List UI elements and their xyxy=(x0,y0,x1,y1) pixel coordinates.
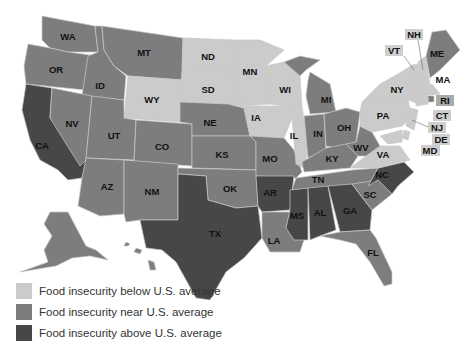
svg-text:CA: CA xyxy=(35,140,49,151)
svg-text:KY: KY xyxy=(325,153,339,164)
svg-text:AZ: AZ xyxy=(101,181,114,192)
legend-label-below: Food insecurity below U.S. average xyxy=(39,285,221,297)
svg-text:CT: CT xyxy=(436,110,449,121)
svg-text:OH: OH xyxy=(337,122,351,133)
state-AK xyxy=(20,212,108,272)
svg-text:NM: NM xyxy=(145,186,160,197)
svg-text:SC: SC xyxy=(363,189,376,200)
svg-text:MN: MN xyxy=(243,66,258,77)
legend-item-near: Food insecurity near U.S. average xyxy=(16,301,222,322)
svg-text:RI: RI xyxy=(440,95,450,106)
svg-text:MA: MA xyxy=(436,74,451,85)
svg-text:GA: GA xyxy=(343,205,357,216)
svg-text:WV: WV xyxy=(353,142,369,153)
svg-text:NV: NV xyxy=(65,118,79,129)
swatch-above xyxy=(16,325,32,341)
svg-text:WY: WY xyxy=(144,94,160,105)
state-HI2 xyxy=(124,242,130,246)
legend-label-above: Food insecurity above U.S. average xyxy=(39,327,222,339)
state-MD xyxy=(380,130,402,144)
legend-item-above: Food insecurity above U.S. average xyxy=(16,322,222,343)
legend: Food insecurity below U.S. average Food … xyxy=(16,280,222,343)
svg-text:NE: NE xyxy=(203,117,216,128)
svg-text:AL: AL xyxy=(314,207,327,218)
svg-text:CO: CO xyxy=(155,141,169,152)
svg-text:OR: OR xyxy=(49,64,63,75)
svg-text:MO: MO xyxy=(262,153,277,164)
svg-text:NY: NY xyxy=(390,84,404,95)
svg-text:NC: NC xyxy=(375,169,389,180)
svg-text:TX: TX xyxy=(209,228,222,239)
svg-text:ME: ME xyxy=(430,48,444,59)
svg-text:KS: KS xyxy=(215,149,228,160)
state-HI xyxy=(148,260,156,270)
svg-text:IN: IN xyxy=(313,128,323,139)
state-FL xyxy=(320,230,392,286)
svg-text:VA: VA xyxy=(377,149,390,160)
legend-label-near: Food insecurity near U.S. average xyxy=(39,306,214,318)
svg-text:NH: NH xyxy=(407,29,421,40)
svg-text:UT: UT xyxy=(108,130,121,141)
svg-text:IA: IA xyxy=(251,112,261,123)
legend-item-below: Food insecurity below U.S. average xyxy=(16,280,222,301)
svg-text:TN: TN xyxy=(312,174,325,185)
svg-text:ND: ND xyxy=(201,51,215,62)
svg-text:PA: PA xyxy=(377,110,390,121)
svg-text:SD: SD xyxy=(201,84,214,95)
svg-text:NJ: NJ xyxy=(431,122,443,133)
svg-text:DE: DE xyxy=(434,134,447,145)
svg-text:VT: VT xyxy=(388,45,400,56)
svg-text:MI: MI xyxy=(321,94,332,105)
state-HI3 xyxy=(134,248,142,254)
state-CT xyxy=(416,96,428,106)
swatch-below xyxy=(16,283,32,299)
svg-text:ID: ID xyxy=(95,80,105,91)
svg-text:WI: WI xyxy=(279,84,291,95)
svg-text:FL: FL xyxy=(367,247,379,258)
svg-text:AR: AR xyxy=(263,187,277,198)
svg-text:LA: LA xyxy=(268,235,281,246)
state-MI xyxy=(306,72,336,114)
svg-text:IL: IL xyxy=(290,130,299,141)
swatch-near xyxy=(16,304,32,320)
svg-text:OK: OK xyxy=(223,183,237,194)
svg-text:MS: MS xyxy=(290,210,304,221)
svg-text:WA: WA xyxy=(60,31,75,42)
state-DE xyxy=(402,130,410,140)
svg-text:MD: MD xyxy=(423,145,438,156)
svg-text:MT: MT xyxy=(137,47,151,58)
